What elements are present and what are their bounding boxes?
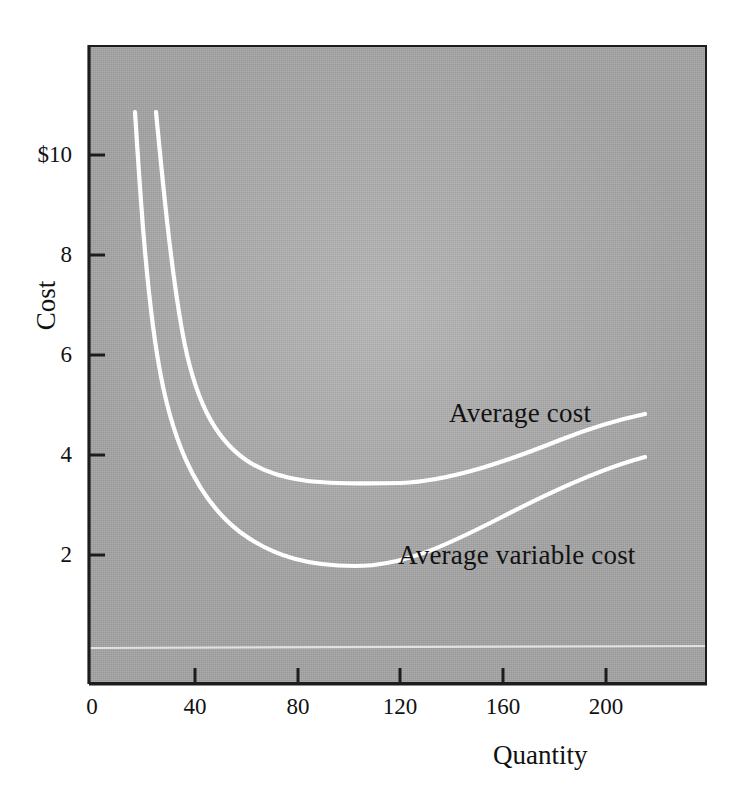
x-tick-label-200: 200 <box>589 694 624 720</box>
x-tick-label-120: 120 <box>383 694 418 720</box>
x-tick-label-0: 0 <box>86 694 98 720</box>
x-tick-label-160: 160 <box>486 694 521 720</box>
plot-grain-texture <box>90 47 705 682</box>
y-tick-label-6: 6 <box>14 342 72 368</box>
x-axis-title: Quantity <box>493 740 588 771</box>
y-tick-label-4: 4 <box>14 442 72 468</box>
x-tick-label-40: 40 <box>184 694 207 720</box>
x-tick-label-80: 80 <box>287 694 310 720</box>
y-tick-label-10: $10 <box>14 142 72 168</box>
average-cost-label: Average cost <box>449 398 591 429</box>
y-tick-label-8: 8 <box>14 242 72 268</box>
y-tick-label-2: 2 <box>14 542 72 568</box>
cost-curves-figure: $10 8 6 4 2 0 40 80 120 160 200 Cost Qua… <box>0 0 751 791</box>
average-variable-cost-label: Average variable cost <box>398 540 636 571</box>
plot-area <box>88 45 707 684</box>
y-axis-title: Cost <box>31 281 62 331</box>
